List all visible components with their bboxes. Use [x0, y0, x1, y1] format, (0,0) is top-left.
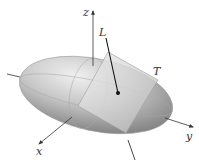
- point-of-tangency: [116, 91, 120, 95]
- y-axis: [165, 118, 193, 127]
- y-axis-label: y: [185, 130, 193, 143]
- x-axis: [39, 117, 72, 144]
- normal-line-label: L: [98, 26, 106, 39]
- normal-line-lower: [128, 140, 135, 160]
- diagram-canvas: z T L y x: [0, 0, 199, 168]
- tangent-plane-label: T: [153, 65, 162, 78]
- z-axis-label: z: [82, 6, 89, 19]
- ellipsoid-diagram: z T L y x: [0, 0, 199, 168]
- x-axis-label: x: [36, 145, 43, 158]
